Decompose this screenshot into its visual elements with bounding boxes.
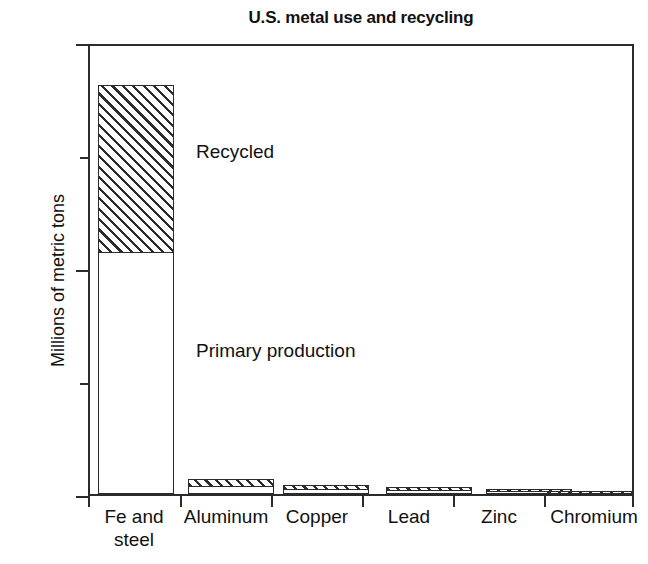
y-axis-title: Millions of metric tons (48, 131, 69, 431)
chart-figure: U.S. metal use and recycling Millions of… (0, 0, 648, 564)
x-label-copper: Copper (270, 505, 364, 528)
y-tick-mark-200 (76, 44, 88, 46)
x-label-fe-line-2: steel (86, 528, 182, 551)
bar-segment-primary (188, 486, 274, 494)
bar-copper (283, 485, 369, 494)
x-label-fe-and-steel: Fe and steel (86, 505, 182, 551)
bar-chromium (547, 491, 633, 494)
x-label-fe-line-1: Fe and (86, 505, 182, 528)
plot-area: Recycled Primary production (88, 44, 634, 496)
bar-segment-recycled (547, 491, 633, 494)
x-label-zinc: Zinc (453, 505, 545, 528)
annotation-primary-production: Primary production (196, 340, 355, 362)
y-tick-mark-150 (80, 157, 88, 159)
y-tick-mark-50 (80, 383, 88, 385)
bar-segment-recycled (283, 485, 369, 490)
y-tick-mark-100 (76, 270, 88, 272)
bar-lead (386, 487, 472, 494)
bar-segment-primary (98, 252, 174, 494)
x-label-chromium: Chromium (542, 505, 646, 528)
bar-aluminum (188, 479, 274, 494)
annotation-recycled: Recycled (196, 141, 274, 163)
x-label-lead: Lead (363, 505, 455, 528)
bar-segment-recycled (386, 487, 472, 491)
x-label-aluminum: Aluminum (176, 505, 276, 528)
chart-title: U.S. metal use and recycling (88, 8, 634, 28)
bar-fe-and-steel (98, 85, 174, 494)
bar-segment-recycled (188, 479, 274, 487)
y-tick-mark-0 (76, 496, 88, 498)
bar-segment-recycled (98, 85, 174, 253)
